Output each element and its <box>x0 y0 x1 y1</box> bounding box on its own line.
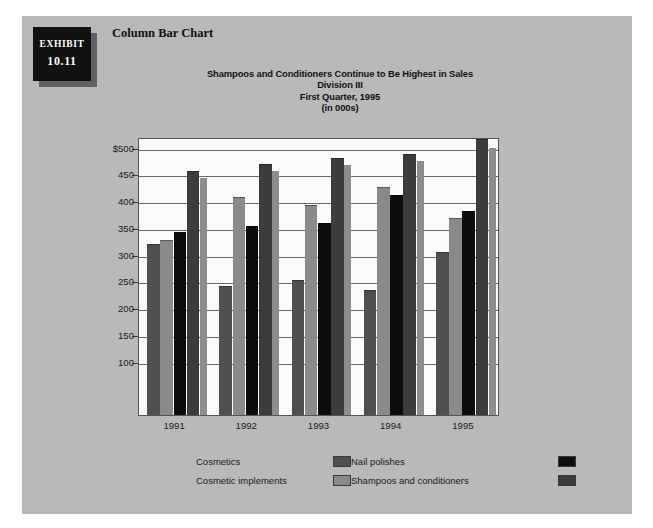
y-axis-tick-label: 200 <box>86 303 134 314</box>
exhibit-page: Exhibit 10.11 Column Bar Chart Shampoos … <box>0 0 653 528</box>
chart-title: Shampoos and Conditioners Continue to Be… <box>120 68 560 79</box>
chart-subtitle: Division III <box>120 79 560 90</box>
y-axis-tick-label: 150 <box>86 330 134 341</box>
legend-item: Cosmetic implements <box>196 475 351 486</box>
y-axis-tick-label: 100 <box>86 357 134 368</box>
legend-item-label: Nail polishes <box>351 456 552 467</box>
x-axis-tick-label: 1994 <box>355 420 427 431</box>
legend-item-swatch <box>333 475 351 486</box>
exhibit-badge-number: 10.11 <box>47 54 76 69</box>
x-axis-tick-label: 1995 <box>427 420 499 431</box>
chart-units: (in 000s) <box>120 102 560 113</box>
legend-item: Cosmetics <box>196 456 351 467</box>
y-axis-tick-label: 350 <box>86 223 134 234</box>
y-axis-tick-label: 400 <box>86 196 134 207</box>
legend-item: Nail polishes <box>351 456 576 467</box>
exhibit-badge-label: Exhibit <box>40 39 85 49</box>
chart-legend: CosmeticsNail polishesCosmetic implement… <box>196 452 576 490</box>
y-axis-tick-label: 250 <box>86 276 134 287</box>
legend-item-label: Cosmetics <box>196 456 327 467</box>
x-axis: 19911992199319941995 <box>138 138 499 416</box>
legend-item: Shampoos and conditioners <box>351 475 576 486</box>
legend-item-swatch <box>333 456 351 467</box>
y-axis-tick-label: 300 <box>86 250 134 261</box>
legend-item-swatch <box>558 475 576 486</box>
chart-subtitle-period: First Quarter, 1995 <box>120 91 560 102</box>
chart-title-block: Shampoos and Conditioners Continue to Be… <box>120 68 560 114</box>
exhibit-caption: Column Bar Chart <box>112 26 213 41</box>
y-axis-tick-label: $500 <box>86 143 134 154</box>
exhibit-badge: Exhibit 10.11 <box>33 27 91 81</box>
legend-item-label: Shampoos and conditioners <box>351 475 552 486</box>
y-axis-tick-label: 450 <box>86 169 134 180</box>
x-axis-tick-label: 1993 <box>282 420 354 431</box>
x-axis-tick-label: 1992 <box>210 420 282 431</box>
legend-item-label: Cosmetic implements <box>196 475 327 486</box>
legend-item-swatch <box>558 456 576 467</box>
x-axis-tick-label: 1991 <box>138 420 210 431</box>
